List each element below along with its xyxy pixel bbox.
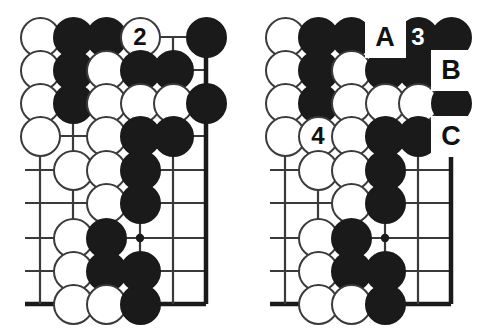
go-stone-black-c6r3[interactable] bbox=[186, 83, 227, 124]
go-board-left: 2 bbox=[0, 0, 245, 333]
go-stone-black-c6r1[interactable] bbox=[186, 17, 227, 58]
go-point-label-b[interactable]: B bbox=[431, 50, 472, 91]
go-point-label-a[interactable]: A bbox=[365, 17, 406, 58]
go-stone-move-number: 4 bbox=[311, 124, 324, 148]
go-stone-layer-left: 2 bbox=[0, 0, 245, 333]
go-stone-black-c4r9[interactable] bbox=[120, 284, 161, 325]
go-stone-move-number: 3 bbox=[411, 25, 424, 49]
go-stone-black-c4r9[interactable] bbox=[365, 284, 406, 325]
go-diagram-figure: 2 34ABC bbox=[0, 0, 489, 333]
go-stone-black-c4r6[interactable] bbox=[120, 183, 161, 224]
go-point-label-c[interactable]: C bbox=[431, 116, 472, 157]
go-stone-white-c1r4[interactable] bbox=[20, 116, 61, 157]
go-stone-black-c5r4[interactable] bbox=[153, 116, 194, 157]
go-board-right: 34ABC bbox=[245, 0, 489, 333]
go-stone-layer-right: 34ABC bbox=[245, 0, 489, 333]
go-stone-move-number: 2 bbox=[133, 25, 146, 49]
go-stone-black-c4r6[interactable] bbox=[365, 183, 406, 224]
